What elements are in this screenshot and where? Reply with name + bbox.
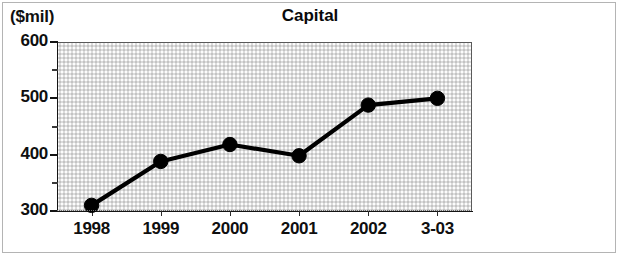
baseline-gridline xyxy=(57,210,472,211)
data-point-2002 xyxy=(361,98,375,112)
series-line xyxy=(92,98,438,205)
data-point-2000 xyxy=(223,137,237,151)
chart-figure: ($mil) Capital 600500400300 199819992000… xyxy=(0,0,620,258)
data-point-3-03 xyxy=(430,91,444,105)
data-point-2001 xyxy=(292,149,306,163)
data-point-1999 xyxy=(154,154,168,168)
series-layer xyxy=(0,0,620,258)
